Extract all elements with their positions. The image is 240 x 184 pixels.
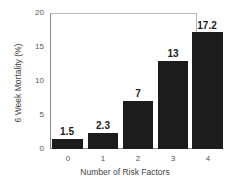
- x-tick-2: 2: [128, 154, 148, 163]
- y-tick-10: 10: [28, 76, 44, 85]
- bar-2: [123, 101, 153, 149]
- bar-0: [52, 139, 83, 149]
- value-label-3: 13: [158, 48, 188, 59]
- bar-1: [88, 133, 118, 149]
- x-tick-0: 0: [58, 154, 78, 163]
- y-tick-15: 15: [28, 42, 44, 51]
- y-tick-20: 20: [28, 8, 44, 17]
- bar-3: [158, 61, 188, 149]
- bar-4: [192, 32, 223, 149]
- value-label-0: 1.5: [52, 126, 82, 137]
- value-label-2: 7: [123, 88, 153, 99]
- y-axis-label: 6 Week Mortality (%): [13, 33, 23, 133]
- x-tick-4: 4: [198, 154, 218, 163]
- value-label-4: 17.2: [192, 20, 222, 31]
- value-label-1: 2.3: [88, 120, 118, 131]
- x-axis-label: Number of Risk Factors: [60, 167, 190, 177]
- x-tick-3: 3: [163, 154, 183, 163]
- y-tick-0: 0: [28, 144, 44, 153]
- y-tick-5: 5: [28, 110, 44, 119]
- x-tick-1: 1: [93, 154, 113, 163]
